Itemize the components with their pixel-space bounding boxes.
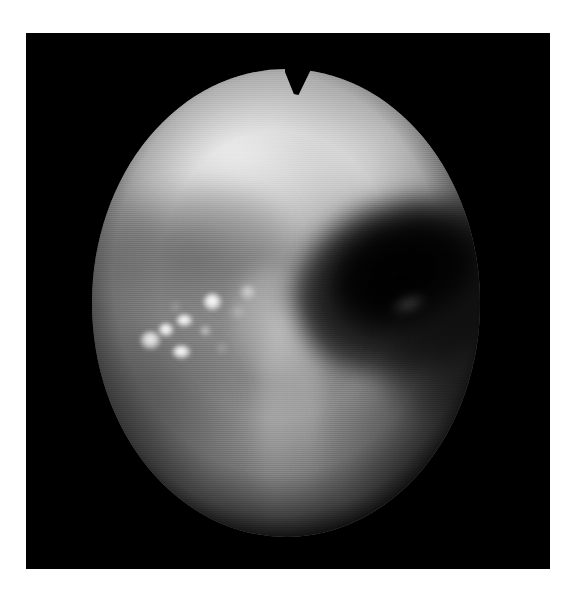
- specular-highlight-spot-7: [217, 344, 227, 353]
- dark-lumen-opening: [272, 171, 480, 403]
- bright-dome-upper-right-region: [307, 73, 480, 203]
- specular-highlight-spot-8: [231, 306, 245, 318]
- endoscope-field-of-view: [26, 33, 550, 569]
- dark-lumen-shadow-tail: [361, 272, 480, 446]
- lumen-interior-speck: [390, 291, 427, 318]
- specular-highlight-spot-2: [176, 314, 193, 327]
- specular-highlight-spot-4: [140, 331, 161, 350]
- bright-dome-upper-left-region: [122, 77, 372, 252]
- specular-highlight-spot-5: [172, 345, 191, 359]
- film-grain-overlay: [92, 69, 480, 537]
- field-of-view-vignette: [92, 69, 480, 537]
- vertical-mucosal-fold-secondary: [242, 389, 292, 537]
- specular-highlight-spot-10: [171, 303, 180, 311]
- pale-mucosa-patch: [230, 265, 308, 375]
- specular-highlight-spot-1: [203, 293, 222, 311]
- specular-highlight-spot-3: [158, 323, 174, 337]
- specular-highlight-spot-9: [240, 285, 256, 300]
- dark-lumen-core: [318, 198, 480, 339]
- shadow-patch-lower-left: [92, 319, 232, 489]
- mucosa-disc: [92, 69, 480, 537]
- specular-highlight-spot-6: [200, 326, 211, 336]
- image-caption: Grayscale endoscopic view: oval field of…: [0, 0, 1, 1]
- vertical-mucosal-fold: [260, 307, 322, 537]
- shadow-patch-lower-right: [342, 369, 480, 534]
- endoscopic-photo-frame: [26, 33, 550, 569]
- shadow-band-mid-left: [92, 171, 297, 322]
- page-root: Grayscale endoscopic view: oval field of…: [0, 0, 577, 598]
